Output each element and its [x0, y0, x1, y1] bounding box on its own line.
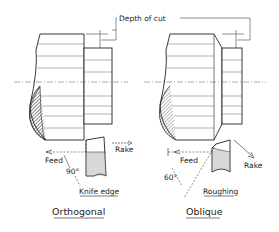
roughing-label: Roughing [203, 187, 239, 196]
angle-label-right: 60° [164, 173, 178, 182]
angle-label-left: 90° [66, 167, 80, 176]
knife-edge-label: Knife edge [79, 187, 120, 196]
feed-label-left: Feed [45, 156, 63, 165]
orthogonal-caption: Orthogonal [52, 206, 105, 217]
rake-label-right: Rake [244, 161, 263, 170]
depth-of-cut-label: Depth of cut [119, 14, 166, 23]
feed-label-right: Feed [180, 156, 198, 165]
rake-label-left: Rake [115, 145, 134, 154]
oblique-caption: Oblique [186, 206, 223, 217]
cutting-diagram: Depth of cut Rake Feed 90° Knife edge Or… [0, 0, 279, 232]
turned-section-left [84, 48, 112, 124]
turned-section-right [222, 48, 242, 124]
